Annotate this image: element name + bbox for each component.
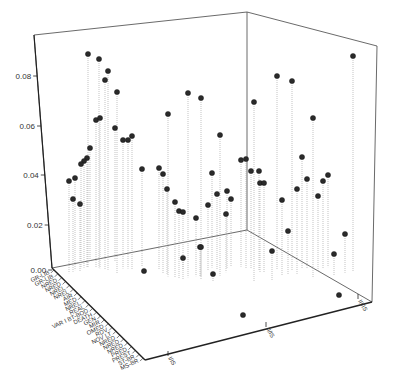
x-axis-ticks: I/ISII/ISIII/IS bbox=[167, 294, 368, 366]
data-point bbox=[70, 196, 75, 201]
data-point bbox=[310, 115, 315, 120]
data-point bbox=[66, 178, 71, 183]
data-point bbox=[165, 111, 170, 116]
data-point bbox=[214, 191, 219, 196]
data-point bbox=[285, 228, 290, 233]
z-tick-label: 0.04 bbox=[23, 171, 39, 180]
x-tick-label: II/IS bbox=[265, 327, 276, 339]
data-point bbox=[160, 171, 165, 176]
data-point bbox=[141, 268, 146, 273]
data-point bbox=[120, 137, 125, 142]
data-point bbox=[198, 244, 203, 249]
data-point bbox=[256, 168, 261, 173]
x-tick-label: I/IS bbox=[167, 356, 177, 367]
data-point bbox=[77, 201, 82, 206]
data-point bbox=[217, 132, 222, 137]
data-point bbox=[114, 89, 119, 94]
data-point bbox=[274, 73, 279, 78]
data-point bbox=[238, 157, 243, 162]
data-point bbox=[289, 78, 294, 83]
z-axis-ticks: 0.000.020.040.060.08 bbox=[16, 72, 53, 275]
data-point bbox=[350, 53, 355, 58]
data-point bbox=[87, 145, 92, 150]
data-point bbox=[336, 292, 341, 297]
data-point bbox=[269, 248, 274, 253]
data-point bbox=[299, 154, 304, 159]
data-point bbox=[248, 168, 253, 173]
data-point bbox=[205, 202, 210, 207]
data-point bbox=[315, 193, 320, 198]
data-point bbox=[320, 178, 325, 183]
data-points bbox=[66, 51, 355, 317]
data-point bbox=[198, 95, 203, 100]
z-tick-label: 0.06 bbox=[19, 122, 35, 131]
data-point bbox=[279, 197, 284, 202]
data-point bbox=[129, 133, 134, 138]
data-point bbox=[85, 51, 90, 56]
data-point bbox=[97, 115, 102, 120]
depth-axis-ticks: GR-LIBGR-LIBNREDNREDNRELNRELAIRMEDNRELRE… bbox=[30, 269, 143, 371]
chart-3d-needle: 0.000.020.040.060.08 I/ISII/ISIII/IS GR-… bbox=[0, 0, 395, 380]
data-point bbox=[251, 99, 256, 104]
data-point bbox=[180, 255, 185, 260]
data-point bbox=[342, 231, 347, 236]
data-point bbox=[223, 211, 228, 216]
data-point bbox=[102, 77, 107, 82]
data-point bbox=[243, 156, 248, 161]
data-point bbox=[304, 176, 309, 181]
needles bbox=[69, 54, 353, 317]
data-point bbox=[325, 172, 330, 177]
data-point bbox=[331, 251, 336, 256]
data-point bbox=[294, 186, 299, 191]
data-point bbox=[193, 215, 198, 220]
data-point bbox=[105, 68, 110, 73]
data-point bbox=[180, 209, 185, 214]
data-point bbox=[185, 90, 190, 95]
data-point bbox=[139, 166, 144, 171]
z-tick-label: 0.08 bbox=[16, 72, 32, 81]
z-tick-label: 0.02 bbox=[27, 221, 43, 230]
data-point bbox=[224, 188, 229, 193]
data-point bbox=[228, 196, 233, 201]
data-point bbox=[78, 161, 83, 166]
data-point bbox=[156, 165, 161, 170]
data-point bbox=[209, 170, 214, 175]
data-point bbox=[261, 180, 266, 185]
data-point bbox=[172, 199, 177, 204]
data-point bbox=[164, 186, 169, 191]
data-point bbox=[112, 125, 117, 130]
data-point bbox=[125, 137, 130, 142]
data-point bbox=[96, 56, 101, 61]
data-point bbox=[240, 312, 245, 317]
data-point bbox=[210, 271, 215, 276]
data-point bbox=[72, 175, 77, 180]
